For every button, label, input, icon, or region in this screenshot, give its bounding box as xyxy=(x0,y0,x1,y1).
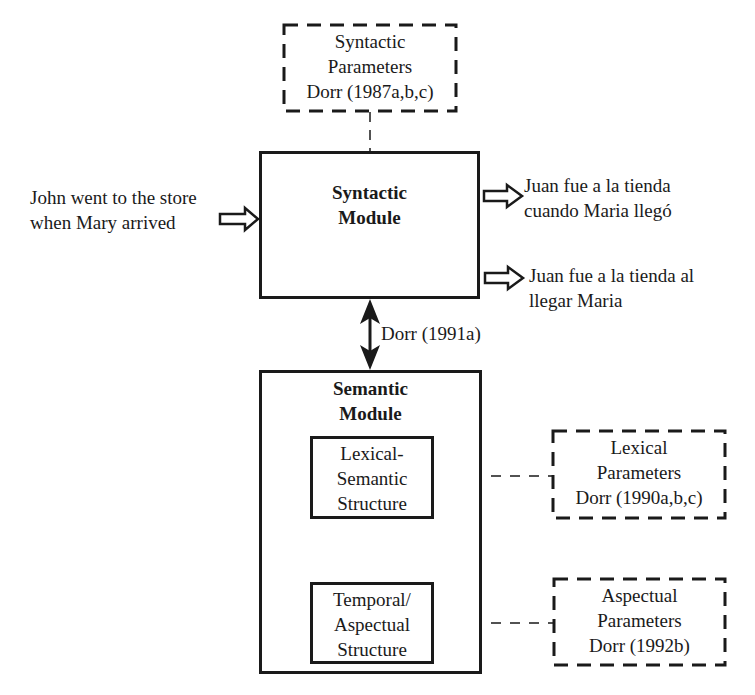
syntactic-module-title-line-1: Syntactic xyxy=(262,181,477,205)
aspectual-parameters-line-2: Parameters xyxy=(554,609,725,633)
lexical-semantic-structure-line-3: Structure xyxy=(313,492,431,516)
syntactic-module-title-line-2: Module xyxy=(262,206,477,230)
link-label-citation: Dorr (1991a) xyxy=(381,322,481,346)
bidirectional-arrow-icon xyxy=(360,299,380,370)
output-1-line-1: Juan fue a la tienda xyxy=(524,174,671,198)
lexical-parameters-citation: Dorr (1990a,b,c) xyxy=(553,486,725,510)
syntactic-parameters-citation: Dorr (1987a,b,c) xyxy=(284,80,456,104)
lexical-parameters-box: Lexical Parameters Dorr (1990a,b,c) xyxy=(553,431,725,518)
temporal-aspectual-structure-line-2: Aspectual xyxy=(313,613,431,637)
output-2-line-1: Juan fue a la tienda al xyxy=(529,264,694,288)
temporal-aspectual-structure-box: Temporal/ Aspectual Structure xyxy=(310,582,434,664)
syntactic-parameters-line-2: Parameters xyxy=(284,55,456,79)
input-sentence-line-1: John went to the store xyxy=(30,186,197,210)
lexical-semantic-structure-line-1: Lexical- xyxy=(313,442,431,466)
output-2-line-2: llegar Maria xyxy=(529,289,622,313)
aspectual-parameters-box: Aspectual Parameters Dorr (1992b) xyxy=(554,579,725,665)
lexical-semantic-structure-line-2: Semantic xyxy=(313,467,431,491)
aspectual-parameters-line-1: Aspectual xyxy=(554,584,725,608)
lexical-semantic-structure-box: Lexical- Semantic Structure xyxy=(310,436,434,519)
syntactic-module-box: Syntactic Module xyxy=(259,151,480,299)
semantic-module-title-line-1: Semantic xyxy=(262,377,479,401)
syntactic-parameters-line-1: Syntactic xyxy=(284,30,456,54)
aspectual-parameters-citation: Dorr (1992b) xyxy=(554,634,725,658)
semantic-module-title-line-2: Module xyxy=(262,402,479,426)
output-arrow-1-icon xyxy=(484,185,522,207)
syntactic-parameters-box: Syntactic Parameters Dorr (1987a,b,c) xyxy=(284,25,456,111)
output-arrow-2-icon xyxy=(485,267,523,289)
lexical-parameters-line-2: Parameters xyxy=(553,461,725,485)
temporal-aspectual-structure-line-3: Structure xyxy=(313,638,431,662)
lexical-parameters-line-1: Lexical xyxy=(553,436,725,460)
input-sentence-line-2: when Mary arrived xyxy=(30,211,176,235)
output-1-line-2: cuando Maria llegó xyxy=(524,199,672,223)
temporal-aspectual-structure-line-1: Temporal/ xyxy=(313,588,431,612)
input-arrow-icon xyxy=(220,208,258,230)
